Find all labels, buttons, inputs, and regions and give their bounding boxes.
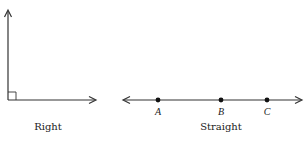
point-label-c: C xyxy=(264,106,271,117)
point-b xyxy=(219,98,224,103)
right-angle-marker xyxy=(8,92,16,100)
straight-angle-figure xyxy=(123,97,302,104)
caption-right: Right xyxy=(34,121,62,132)
angles-diagram: Right A B C Straight xyxy=(0,0,307,152)
point-c xyxy=(265,98,270,103)
caption-straight: Straight xyxy=(200,121,242,132)
point-a xyxy=(156,98,161,103)
point-label-b: B xyxy=(218,106,224,117)
right-angle-figure xyxy=(5,10,97,104)
point-label-a: A xyxy=(154,106,162,117)
